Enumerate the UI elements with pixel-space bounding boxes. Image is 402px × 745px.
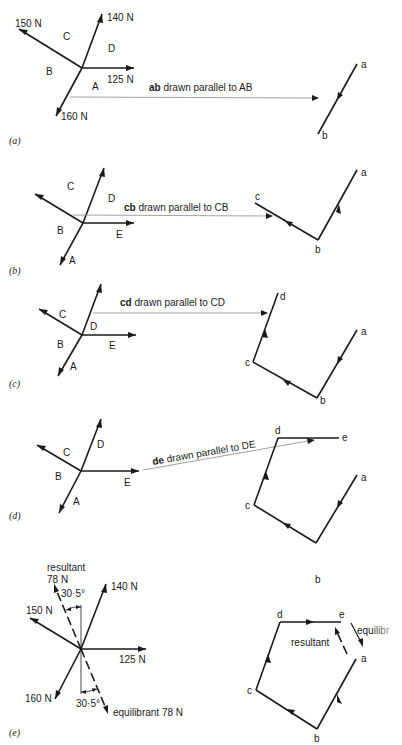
arrowhead-icon: [96, 284, 102, 293]
point-label: b: [314, 733, 320, 744]
point-label: b: [322, 130, 328, 141]
panel-a: 140 N 150 N 125 N 160 N A B C D ab drawn…: [9, 12, 367, 147]
space-label-e: E: [124, 477, 131, 488]
force-150n-vector: [35, 194, 83, 223]
arrowhead-icon: [81, 690, 86, 694]
note-text: drawn parallel to CD: [132, 297, 225, 308]
point-label: b: [315, 244, 321, 255]
arrowhead-icon: [283, 523, 291, 529]
point-label: b: [320, 395, 326, 406]
point-label: c: [245, 500, 250, 511]
force-label: 125 N: [107, 74, 134, 85]
arrowhead-icon: [101, 584, 107, 593]
arrowhead-icon: [131, 468, 139, 474]
point-label: c: [247, 685, 252, 696]
side-bc: [253, 362, 317, 398]
space-diagram-a: 140 N 150 N 125 N 160 N A B C D: [15, 12, 134, 122]
force-polygon-d: a c d e: [245, 425, 367, 543]
arrowhead-icon: [285, 221, 293, 227]
force-polygon-figure: 140 N 150 N 125 N 160 N A B C D ab drawn…: [0, 0, 402, 745]
arrowhead-icon: [358, 638, 363, 647]
resultant-angle: 30·5°: [61, 588, 85, 599]
arrowhead-icon: [266, 213, 273, 219]
point-label: a: [361, 167, 367, 178]
side-cd: [253, 293, 278, 362]
construction-line: [70, 97, 312, 98]
force-polygon-c: a b c d: [245, 291, 367, 406]
arrowhead-icon: [337, 356, 343, 364]
space-label-e: E: [116, 229, 123, 240]
arrowhead-icon: [307, 438, 315, 444]
construction-line: [73, 215, 268, 216]
note-text: drawn parallel to AB: [161, 82, 253, 93]
point-label: a: [361, 59, 367, 70]
note-bold: cb: [124, 202, 136, 213]
note-text: drawn parallel to CB: [136, 202, 229, 213]
resultant-magnitude: 78 N: [47, 574, 68, 585]
point-label: d: [280, 291, 286, 302]
force-label: 140 N: [111, 581, 138, 592]
arrowhead-icon: [265, 654, 271, 663]
panel-caption: (c): [9, 378, 21, 390]
force-polygon-e: a b c d e resultant equilibr: [247, 609, 402, 744]
space-label-a: A: [73, 496, 80, 507]
note-bold: ab: [149, 82, 161, 93]
arrowhead-icon: [261, 310, 268, 316]
space-label-a: A: [69, 255, 76, 266]
space-diagram-b: A B C D E: [35, 168, 134, 266]
space-label-c: C: [59, 309, 66, 320]
arrowhead-icon: [126, 65, 134, 71]
equilibrant-angle: 30·5°: [76, 698, 100, 709]
construction-note: cd drawn parallel to CD: [120, 297, 225, 308]
space-label-d: D: [90, 321, 97, 332]
point-label: d: [277, 609, 283, 620]
panel-caption: (b): [9, 265, 21, 277]
panel-caption: (a): [9, 135, 21, 147]
panel-e: resultant 78 N 30·5° 140 N 150 N 125 N 1…: [9, 562, 402, 744]
panel-caption: (e): [9, 727, 21, 739]
panel-b: A B C D E cb drawn parallel to CB a b c …: [9, 167, 367, 277]
point-label: a: [361, 326, 367, 337]
side-bc: [256, 690, 317, 729]
space-label-b: B: [55, 471, 62, 482]
arrowhead-icon: [138, 646, 146, 652]
panel-c: A B C D E cd drawn parallel to CD a b c …: [9, 284, 367, 406]
space-label-d: D: [97, 439, 104, 450]
arrowhead-icon: [76, 605, 81, 609]
resultant-label: resultant: [47, 562, 86, 573]
space-label-a: A: [70, 361, 77, 372]
arrowhead-icon: [337, 694, 342, 704]
force-polygon-a: a b: [318, 59, 367, 141]
force-label: 160 N: [25, 693, 52, 704]
force-label: 150 N: [15, 18, 42, 29]
space-label-a: A: [92, 81, 99, 92]
force-label: 150 N: [26, 605, 53, 616]
side-ab: [316, 475, 357, 543]
side-ab: [318, 170, 357, 240]
point-label: e: [339, 609, 345, 620]
arrowhead-icon: [128, 332, 136, 338]
force-150n-vector: [30, 618, 81, 649]
space-label-d: D: [108, 43, 115, 54]
arrowhead-icon: [66, 607, 71, 611]
point-label: b: [315, 574, 321, 585]
note-bold: cd: [120, 297, 132, 308]
space-label-b: B: [46, 66, 53, 77]
space-label-b: B: [57, 225, 64, 236]
space-label-c: C: [63, 31, 70, 42]
force-label: 160 N: [61, 111, 88, 122]
equilibrant-label: equilibrant 78 N: [113, 707, 183, 718]
arrowhead-icon: [283, 380, 291, 386]
force-160n-vector: [55, 649, 81, 699]
space-label-e: E: [109, 340, 116, 351]
arrowhead-icon: [306, 619, 314, 625]
side-ab: [317, 659, 356, 729]
arrowhead-icon: [92, 688, 97, 692]
point-label: a: [361, 653, 367, 664]
arrowhead-icon: [103, 705, 108, 714]
force-label: 125 N: [119, 654, 146, 665]
point-label: e: [342, 432, 348, 443]
force-polygon-b: a b c: [255, 167, 367, 255]
point-label: d: [275, 425, 281, 436]
panel-caption: (d): [9, 510, 21, 522]
